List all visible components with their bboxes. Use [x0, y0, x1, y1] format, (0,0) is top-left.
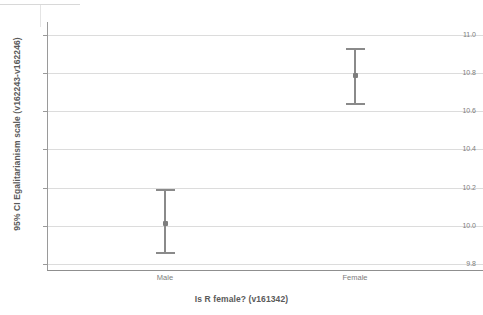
y-tick-mark-10-2	[43, 188, 48, 189]
error-bar-chart: 11.0 10.8 10.6 10.4 10.2 10.0 9.8 95% CI…	[0, 0, 483, 315]
y-axis-line	[47, 22, 48, 270]
x-tick-label-male: Male	[157, 273, 173, 282]
gridline-10-6	[47, 111, 483, 112]
y-tick-mark-9-8	[43, 264, 48, 265]
plot-area	[47, 35, 483, 264]
y-tick-label-10-0: 10.0	[439, 222, 483, 229]
x-axis-title: Is R female? (v161342)	[0, 294, 483, 304]
gridline-9-8	[47, 264, 483, 265]
y-tick-mark-11-0	[43, 35, 48, 36]
y-tick-label-10-8: 10.8	[439, 69, 483, 76]
x-axis-line	[47, 270, 483, 271]
y-tick-mark-10-0	[43, 226, 48, 227]
gridline-10-8	[47, 73, 483, 74]
y-tick-label-10-2: 10.2	[439, 184, 483, 191]
gridline-10-2	[47, 188, 483, 189]
scan-artifact-tick	[40, 5, 41, 27]
y-axis-title: 95% CI Egalitarianism scale (v162243-v16…	[12, 4, 22, 264]
y-tick-mark-10-6	[43, 111, 48, 112]
cropped-title	[0, 0, 483, 7]
mean-marker-male	[163, 221, 168, 226]
error-bar-cap-lower-male	[156, 252, 175, 254]
gridline-10-0	[47, 226, 483, 227]
y-tick-label-10-4: 10.4	[439, 145, 483, 152]
y-tick-label-9-8: 9.8	[439, 260, 483, 267]
y-tick-mark-10-4	[43, 149, 48, 150]
y-tick-label-10-6: 10.6	[439, 107, 483, 114]
gridline-10-4	[47, 149, 483, 150]
x-tick-label-female: Female	[342, 273, 367, 282]
gridline-11-0	[47, 35, 483, 36]
error-bar-cap-lower-female	[346, 103, 365, 105]
y-tick-mark-10-8	[43, 73, 48, 74]
mean-marker-female	[353, 73, 358, 78]
y-tick-label-11-0: 11.0	[439, 31, 483, 38]
